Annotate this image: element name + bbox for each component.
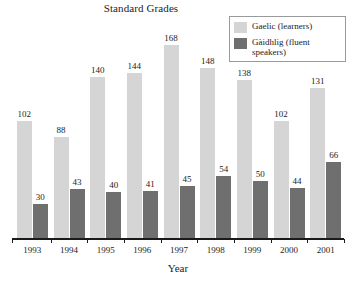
- x-axis-tick: [234, 239, 235, 243]
- bar-group: 14441: [127, 20, 158, 238]
- x-axis-tick: [161, 239, 162, 243]
- bar-chart: Standard Grades Gaelic (learners) Gàidhl…: [0, 0, 352, 290]
- x-tick-label: 1996: [124, 245, 160, 255]
- bar-gaelic-learners: [164, 45, 179, 238]
- x-tick-label: 1995: [88, 245, 124, 255]
- bar-gaidhlig-fluent-speakers: [180, 186, 195, 238]
- bar-gaidhlig-fluent-speakers: [143, 191, 158, 238]
- x-axis-tick: [124, 239, 125, 243]
- bar-value-label: 66: [317, 150, 351, 160]
- bar-value-label: 138: [227, 68, 261, 78]
- x-axis-tick: [344, 239, 345, 243]
- bar-group: 13166: [310, 20, 341, 238]
- bar-group: 8843: [54, 20, 85, 238]
- bar-value-label: 45: [170, 174, 204, 184]
- x-axis-tick: [271, 239, 272, 243]
- bar-value-label: 102: [7, 109, 41, 119]
- x-axis-title: Year: [12, 262, 344, 274]
- chart-title: Standard Grades: [0, 2, 282, 14]
- bar-value-label: 54: [207, 164, 241, 174]
- bar-value-label: 44: [280, 176, 314, 186]
- bar-gaidhlig-fluent-speakers: [33, 204, 48, 238]
- bar-group: 16845: [164, 20, 195, 238]
- bar-gaidhlig-fluent-speakers: [253, 181, 268, 238]
- bar-gaidhlig-fluent-speakers: [290, 188, 305, 238]
- bar-value-label: 140: [81, 65, 115, 75]
- x-tick-label: 1998: [198, 245, 234, 255]
- x-tick-label: 1999: [234, 245, 270, 255]
- x-axis-tick: [12, 239, 13, 243]
- bar-value-label: 88: [44, 125, 78, 135]
- bar-value-label: 148: [191, 56, 225, 66]
- bar-group: 14040: [90, 20, 121, 238]
- bar-gaelic-learners: [54, 137, 69, 238]
- bar-value-label: 30: [23, 192, 57, 202]
- x-axis-tick: [307, 239, 308, 243]
- bar-gaelic-learners: [237, 80, 252, 238]
- x-tick-label: 2001: [308, 245, 344, 255]
- x-axis-tick: [87, 239, 88, 243]
- plot-area: 1023088431404014441168451485413850102441…: [14, 20, 344, 238]
- x-axis-tick: [197, 239, 198, 243]
- x-tick-label: 2000: [271, 245, 307, 255]
- x-axis-line: [12, 238, 344, 240]
- x-tick-label: 1993: [14, 245, 50, 255]
- bar-group: 10244: [274, 20, 305, 238]
- bar-value-label: 50: [243, 169, 277, 179]
- bar-gaidhlig-fluent-speakers: [326, 162, 341, 238]
- bar-value-label: 102: [264, 109, 298, 119]
- bar-gaidhlig-fluent-speakers: [106, 192, 121, 238]
- bar-value-label: 131: [301, 76, 335, 86]
- x-axis-tick: [51, 239, 52, 243]
- bar-value-label: 40: [97, 180, 131, 190]
- bar-value-label: 43: [60, 177, 94, 187]
- x-tick-label: 1994: [51, 245, 87, 255]
- bar-gaelic-learners: [200, 68, 215, 238]
- bar-gaidhlig-fluent-speakers: [216, 176, 231, 238]
- bar-group: 14854: [200, 20, 231, 238]
- bar-value-label: 41: [133, 179, 167, 189]
- bar-gaelic-learners: [90, 77, 105, 238]
- bar-value-label: 168: [154, 33, 188, 43]
- x-tick-label: 1997: [161, 245, 197, 255]
- bar-value-label: 144: [117, 61, 151, 71]
- bar-gaelic-learners: [127, 73, 142, 238]
- bar-gaelic-learners: [310, 88, 325, 238]
- bar-gaelic-learners: [17, 121, 32, 238]
- bar-gaidhlig-fluent-speakers: [70, 189, 85, 238]
- bar-group: 13850: [237, 20, 268, 238]
